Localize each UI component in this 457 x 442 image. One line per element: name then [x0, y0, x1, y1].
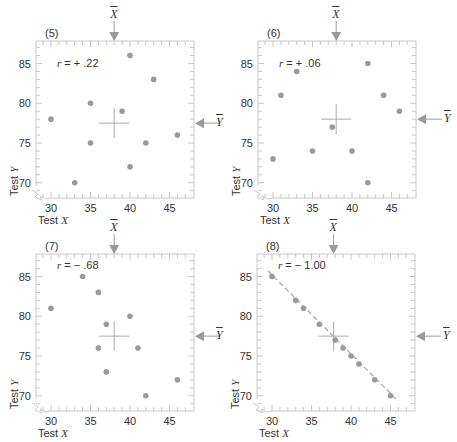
- data-point: [397, 108, 403, 114]
- data-point: [301, 306, 307, 312]
- data-point: [143, 393, 149, 399]
- y-tick-label: 80: [19, 97, 31, 109]
- y-mean-arrow-icon: [417, 114, 426, 124]
- x-tick-label: 45: [384, 415, 396, 427]
- y-tick-label: 80: [19, 310, 31, 322]
- plot-area: 3035404585807570: [221, 213, 449, 434]
- y-axis-title: Test Y: [229, 380, 241, 409]
- data-point: [135, 345, 141, 351]
- y-mean-arrow-icon: [416, 331, 425, 341]
- y-tick-label: 70: [241, 177, 253, 189]
- x-mean-arrow-icon: [109, 32, 119, 41]
- y-tick-label: 75: [240, 350, 252, 362]
- axis-break-icon: [32, 403, 50, 413]
- data-point: [48, 306, 54, 312]
- scatter-panel-6: 3035404585807570 (6) r = + .06 X Y Test …: [222, 0, 450, 221]
- data-point: [365, 61, 371, 67]
- data-point: [96, 290, 102, 296]
- scatter-panel-7: 3035404585807570 (7) r = − .68 X Y Test …: [0, 213, 228, 434]
- data-point: [317, 321, 323, 327]
- y-tick-label: 70: [240, 390, 252, 402]
- data-point: [104, 369, 110, 375]
- y-tick-label: 80: [240, 310, 252, 322]
- data-point: [310, 148, 316, 154]
- x-tick-label: 30: [266, 415, 278, 427]
- plot-area: 3035404585807570: [0, 0, 228, 221]
- data-point: [270, 156, 276, 162]
- y-axis-title: Test Y: [8, 167, 20, 196]
- x-tick-label: 35: [84, 415, 96, 427]
- data-point: [175, 377, 181, 383]
- x-mean-label: X: [332, 7, 339, 22]
- axis-break-icon: [253, 403, 271, 413]
- data-point: [356, 361, 362, 367]
- data-point: [88, 140, 94, 146]
- y-mean-arrow-icon: [195, 331, 204, 341]
- y-tick-label: 85: [240, 271, 252, 283]
- data-point: [388, 393, 394, 399]
- y-tick-label: 80: [241, 97, 253, 109]
- y-tick-label: 70: [19, 390, 31, 402]
- data-point: [340, 345, 346, 351]
- x-tick-label: 40: [124, 415, 136, 427]
- data-point: [349, 148, 355, 154]
- x-mean-arrow-icon: [109, 245, 119, 254]
- data-point: [127, 53, 133, 59]
- axis-break-icon: [254, 190, 272, 200]
- plot-area: 3035404585807570: [222, 0, 450, 221]
- correlation-annotation: r = + .06: [279, 57, 321, 69]
- data-point: [127, 164, 133, 170]
- x-tick-label: 30: [45, 415, 57, 427]
- y-tick-label: 85: [19, 271, 31, 283]
- y-tick-label: 85: [241, 58, 253, 70]
- y-axis-title: Test Y: [230, 167, 242, 196]
- data-point: [88, 100, 94, 106]
- data-point: [348, 353, 354, 359]
- data-point: [175, 132, 181, 138]
- x-mean-label: X: [110, 7, 117, 22]
- data-point: [48, 116, 54, 122]
- correlation-annotation: r = + .22: [57, 57, 99, 69]
- y-tick-label: 75: [19, 350, 31, 362]
- data-point: [381, 93, 387, 99]
- scatter-panel-8: 3035404585807570 (8) r = − 1.00 X Y Test…: [221, 213, 449, 434]
- data-point: [372, 377, 378, 383]
- panel-label: (7): [45, 240, 58, 252]
- y-mean-label: Y: [443, 328, 450, 343]
- x-mean-arrow-icon: [329, 245, 339, 254]
- data-point: [329, 124, 335, 130]
- panel-label: (5): [45, 27, 58, 39]
- x-tick-label: 45: [163, 415, 175, 427]
- data-point: [143, 140, 149, 146]
- scatter-panel-5: 3035404585807570 (5) r = + .22 X Y Test …: [0, 0, 228, 221]
- data-point: [96, 345, 102, 351]
- r-value: = + .22: [61, 57, 98, 69]
- data-point: [293, 298, 299, 304]
- y-tick-label: 75: [241, 137, 253, 149]
- r-value: = + .06: [283, 57, 320, 69]
- data-point: [151, 77, 157, 83]
- r-value: = − 1.00: [282, 259, 325, 271]
- r-value: = − .68: [61, 259, 98, 271]
- x-tick-label: 40: [345, 415, 357, 427]
- correlation-annotation: r = − 1.00: [278, 259, 326, 271]
- data-point: [104, 321, 110, 327]
- panel-label: (6): [267, 27, 280, 39]
- data-point: [119, 108, 125, 114]
- plot-frame: [36, 254, 194, 411]
- x-tick-label: 35: [305, 415, 317, 427]
- data-point: [127, 313, 133, 319]
- y-mean-arrow-icon: [195, 118, 204, 128]
- panel-label: (8): [266, 240, 279, 252]
- data-point: [72, 180, 78, 186]
- y-tick-label: 75: [19, 137, 31, 149]
- axis-break-icon: [32, 190, 50, 200]
- y-tick-label: 70: [19, 177, 31, 189]
- x-mean-arrow-icon: [331, 32, 341, 41]
- data-point: [332, 337, 338, 343]
- y-mean-label: Y: [444, 111, 451, 126]
- x-axis-title: Test X: [38, 427, 68, 439]
- data-point: [80, 274, 86, 280]
- data-point: [365, 180, 371, 186]
- data-point: [269, 274, 275, 280]
